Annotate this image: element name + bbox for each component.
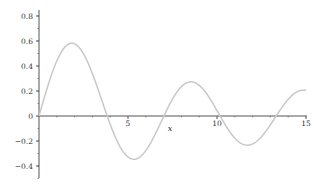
x-tick-label: 10 xyxy=(212,119,222,128)
y-tick-label: 0.4 xyxy=(21,62,33,71)
data-curve xyxy=(39,43,306,159)
y-tick-label: 0.8 xyxy=(21,12,33,21)
y-axis-ticks: 0.80.60.40.20−0.2−0.4 xyxy=(15,12,39,179)
y-tick-label: −0.2 xyxy=(15,137,33,146)
x-tick-label: 15 xyxy=(301,119,311,128)
y-tick-label: 0.6 xyxy=(21,37,33,46)
x-axis-label: x xyxy=(168,124,173,133)
y-tick-label: −0.4 xyxy=(15,162,33,171)
chart: 0.80.60.40.20−0.2−0.4 51015 x xyxy=(0,0,324,188)
x-tick-label: 5 xyxy=(126,119,131,128)
y-tick-label: 0.2 xyxy=(21,87,33,96)
y-tick-label: 0 xyxy=(28,112,33,121)
